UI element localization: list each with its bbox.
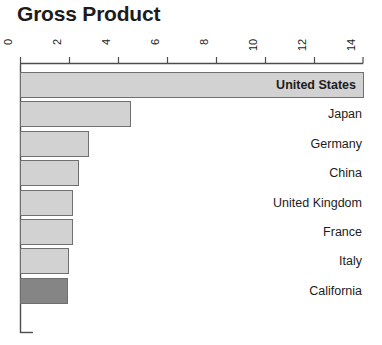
bar-france[interactable] bbox=[20, 219, 73, 245]
xtick-label-12: 12 bbox=[297, 39, 308, 51]
chart-page: Gross Product 0 2 4 6 8 10 12 14 United … bbox=[0, 0, 382, 345]
bar-row: Italy bbox=[20, 247, 364, 276]
xtick-label-10: 10 bbox=[248, 39, 259, 51]
bar-label-united-kingdom: United Kingdom bbox=[273, 190, 362, 216]
xtick-label-14: 14 bbox=[346, 39, 357, 51]
bar-california[interactable] bbox=[20, 278, 68, 304]
xtick-label-8: 8 bbox=[199, 39, 210, 45]
bar-germany[interactable] bbox=[20, 131, 89, 157]
bar-label-united-states: United States bbox=[276, 72, 356, 98]
bar-row: France bbox=[20, 218, 364, 247]
bar-label-china: China bbox=[329, 160, 362, 186]
bar-row: China bbox=[20, 159, 364, 188]
bar-italy[interactable] bbox=[20, 248, 69, 274]
bar-label-germany: Germany bbox=[311, 131, 362, 157]
bar-row: United States bbox=[20, 71, 364, 100]
bar-row: United Kingdom bbox=[20, 189, 364, 218]
xtick-label-2: 2 bbox=[52, 39, 63, 45]
bar-china[interactable] bbox=[20, 160, 79, 186]
bar-japan[interactable] bbox=[20, 101, 131, 127]
xtick-label-0: 0 bbox=[3, 39, 14, 45]
bar-label-italy: Italy bbox=[339, 248, 362, 274]
bar-row: California bbox=[20, 277, 364, 306]
bar-row: Germany bbox=[20, 130, 364, 159]
xtick-label-4: 4 bbox=[101, 39, 112, 45]
bar-label-france: France bbox=[323, 219, 362, 245]
bar-label-california: California bbox=[309, 278, 362, 304]
bars-container: United StatesJapanGermanyChinaUnited Kin… bbox=[20, 71, 364, 311]
bar-label-japan: Japan bbox=[328, 101, 362, 127]
bar-united-kingdom[interactable] bbox=[20, 190, 73, 216]
bar-row: Japan bbox=[20, 100, 364, 129]
xtick-label-6: 6 bbox=[150, 39, 161, 45]
